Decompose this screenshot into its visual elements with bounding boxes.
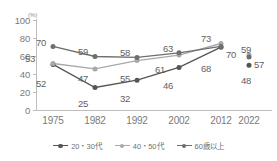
data-label: 61 xyxy=(155,64,165,75)
data-point-marker xyxy=(247,55,252,60)
line-marker-icon xyxy=(177,143,192,148)
data-point-marker xyxy=(135,55,140,60)
data-point-marker xyxy=(93,66,98,71)
data-label: 53 xyxy=(25,53,35,64)
data-label: 58 xyxy=(120,47,130,58)
data-label: 70 xyxy=(36,37,46,48)
data-label: 32 xyxy=(120,93,130,104)
x-tick-label: 1992 xyxy=(117,115,157,126)
legend-label: 40・50代 xyxy=(133,140,164,151)
legend-item-60-plus[interactable]: 60歳以上 xyxy=(177,140,224,151)
data-point-marker xyxy=(177,50,182,55)
data-point-marker xyxy=(247,63,252,68)
legend-label: 20・30代 xyxy=(71,140,102,151)
data-label: 47 xyxy=(78,73,88,84)
x-tick-label: 2022 xyxy=(229,115,269,126)
legend-item-40-50[interactable]: 40・50代 xyxy=(115,140,164,151)
data-label: 25 xyxy=(78,98,88,109)
data-label: 52 xyxy=(36,78,46,89)
line-marker-icon xyxy=(53,143,68,148)
data-label: 55 xyxy=(120,73,130,84)
data-label: 46 xyxy=(163,80,173,91)
data-point-marker xyxy=(135,78,140,83)
legend-label: 60歳以上 xyxy=(195,140,224,151)
data-label: 63 xyxy=(163,43,173,54)
data-point-marker xyxy=(51,61,56,66)
data-label: 73 xyxy=(201,33,211,44)
data-point-marker xyxy=(93,85,98,90)
data-label: 70 xyxy=(226,49,236,60)
x-tick-label: 2002 xyxy=(159,115,199,126)
data-point-marker xyxy=(93,54,98,59)
line-marker-icon xyxy=(115,143,130,148)
legend-item-20-30[interactable]: 20・30代 xyxy=(53,140,102,151)
data-label: 48 xyxy=(241,75,251,86)
data-label: 57 xyxy=(254,59,264,70)
data-label: 68 xyxy=(201,63,211,74)
data-point-marker xyxy=(219,44,224,49)
data-label: 59 xyxy=(78,46,88,57)
data-label: 59 xyxy=(241,44,251,55)
data-point-marker xyxy=(51,44,56,49)
data-point-marker xyxy=(177,65,182,70)
x-tick-label: 1982 xyxy=(75,115,115,126)
x-tick-label: 1975 xyxy=(33,115,73,126)
line-chart: (%) 100 80 60 40 20 0 xyxy=(0,0,277,161)
chart-legend: 20・30代 40・50代 60歳以上 xyxy=(0,140,277,151)
